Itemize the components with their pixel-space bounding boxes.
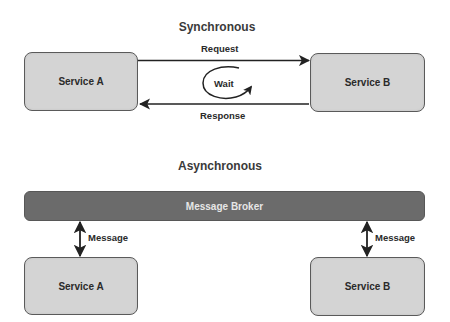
wait-label: Wait (214, 78, 234, 89)
response-label: Response (200, 110, 245, 121)
message-label-a: Message (88, 232, 128, 243)
sync-service-a: Service A (24, 52, 138, 111)
message-broker-label: Message Broker (186, 201, 263, 212)
sync-service-a-label: Service A (58, 76, 103, 87)
asynchronous-title: Asynchronous (150, 159, 290, 173)
request-label: Request (201, 43, 238, 54)
sync-service-b: Service B (310, 53, 425, 112)
async-service-a-label: Service A (58, 281, 103, 292)
async-service-b-label: Service B (345, 281, 391, 292)
async-service-b: Service B (310, 257, 425, 316)
async-service-a: Service A (24, 257, 138, 315)
sync-service-b-label: Service B (345, 77, 391, 88)
synchronous-title: Synchronous (147, 20, 287, 34)
message-broker: Message Broker (24, 191, 425, 221)
message-label-b: Message (375, 232, 415, 243)
